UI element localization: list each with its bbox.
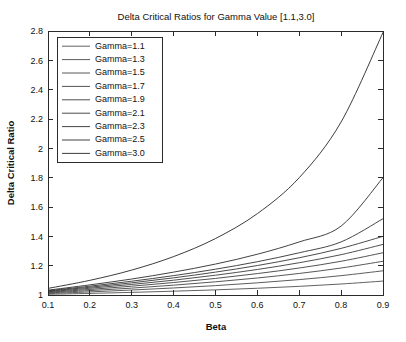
y-tick-label: 1 xyxy=(38,290,43,300)
legend-label-3[interactable]: Gamma=1.7 xyxy=(95,81,145,91)
y-axis-title: Delta Critical Ratio xyxy=(5,121,16,206)
y-tick-label: 1.4 xyxy=(30,232,43,242)
chart-legend[interactable]: Gamma=1.1Gamma=1.3Gamma=1.5Gamma=1.7Gamm… xyxy=(57,37,162,163)
y-tick-label: 2.2 xyxy=(30,114,43,124)
legend-label-4[interactable]: Gamma=1.9 xyxy=(95,94,145,104)
legend-label-6[interactable]: Gamma=2.3 xyxy=(95,121,145,131)
figure-panel: Delta Critical Ratios for Gamma Value [1… xyxy=(0,0,406,342)
y-tick-label: 2.8 xyxy=(30,26,43,36)
y-tick-label: 1.2 xyxy=(30,261,43,271)
y-tick-label: 2.6 xyxy=(30,56,43,66)
legend-label-7[interactable]: Gamma=2.5 xyxy=(95,134,145,144)
x-tick-label: 0.1 xyxy=(42,300,55,310)
y-tick-label: 1.8 xyxy=(30,173,43,183)
legend-label-1[interactable]: Gamma=1.3 xyxy=(95,54,145,64)
x-tick-label: 0.5 xyxy=(209,300,222,310)
legend-label-5[interactable]: Gamma=2.1 xyxy=(95,108,145,118)
x-tick-label: 0.9 xyxy=(377,300,390,310)
chart-title: Delta Critical Ratios for Gamma Value [1… xyxy=(118,11,315,22)
legend-label-2[interactable]: Gamma=1.5 xyxy=(95,67,145,77)
y-tick-label: 2.4 xyxy=(30,85,43,95)
x-tick-label: 0.8 xyxy=(335,300,348,310)
x-tick-label: 0.2 xyxy=(84,300,97,310)
x-tick-label: 0.3 xyxy=(125,300,138,310)
y-tick-label: 2 xyxy=(38,144,43,154)
legend-label-0[interactable]: Gamma=1.1 xyxy=(95,41,145,51)
legend-label-8[interactable]: Gamma=3.0 xyxy=(95,148,145,158)
x-axis-title: Beta xyxy=(206,321,227,332)
x-tick-label: 0.7 xyxy=(293,300,306,310)
x-tick-label: 0.4 xyxy=(167,300,180,310)
x-tick-label: 0.6 xyxy=(251,300,264,310)
delta-critical-ratio-chart: Delta Critical Ratios for Gamma Value [1… xyxy=(0,0,406,342)
y-tick-label: 1.6 xyxy=(30,202,43,212)
